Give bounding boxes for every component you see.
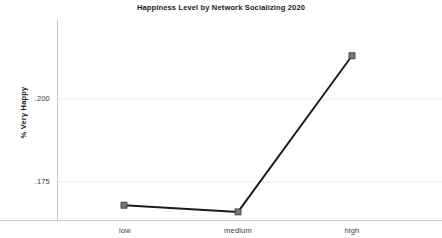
series-line [124, 56, 352, 212]
chart-container: Happiness Level by Network Socializing 2… [0, 0, 442, 238]
gridlines [57, 99, 442, 182]
data-point-low [121, 202, 127, 208]
data-point-medium [235, 209, 241, 215]
plot-area [0, 0, 442, 238]
axis-lines [0, 20, 442, 221]
data-series-very-happy [121, 53, 355, 215]
data-point-high [349, 53, 355, 59]
